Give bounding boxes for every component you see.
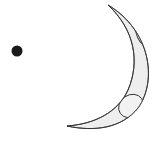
crescent-moon-icon (67, 5, 154, 129)
scene-svg (0, 0, 161, 143)
drawing-canvas (0, 0, 161, 143)
dot-icon (12, 46, 23, 57)
